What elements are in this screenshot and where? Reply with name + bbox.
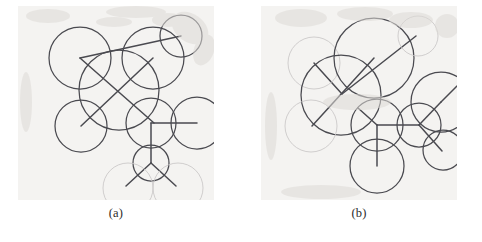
segment-far-right-spoke [441, 86, 457, 102]
circle-far-right-large [411, 72, 457, 132]
segment-diagonal-long-ne [342, 36, 416, 94]
circle-left-lower-faint [285, 100, 337, 152]
figure-panel-b [261, 6, 457, 200]
panel-a-drawing [18, 6, 214, 200]
figure-panel-a [18, 6, 214, 200]
circle-right-lower [423, 130, 457, 170]
circle-bottom-right-faint [153, 163, 203, 200]
segment-diagonal-nw [314, 63, 342, 94]
panel-b-caption: (b) [261, 206, 457, 221]
circle-top-corner-faint [398, 16, 438, 56]
segment-fork-right [151, 163, 176, 186]
segment-diagonal-sw [312, 58, 374, 126]
segment-diagonal-long-ne [80, 36, 181, 58]
panel-a-caption: (a) [18, 206, 214, 221]
figure-root: (a) (b) [0, 0, 482, 242]
segment-fork-left [126, 163, 151, 186]
panel-b-drawing [261, 6, 457, 200]
